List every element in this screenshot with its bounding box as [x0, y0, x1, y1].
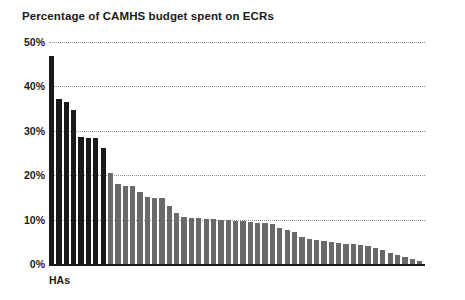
bar-slot: [101, 42, 108, 264]
bar-slot: [49, 42, 56, 264]
bar-slot: [380, 42, 387, 264]
bar-slot: [402, 42, 409, 264]
bar-slot: [152, 42, 159, 264]
plot-area: [49, 42, 425, 264]
bar: [343, 244, 348, 264]
bar-slot: [56, 42, 63, 264]
bar-slot: [233, 42, 240, 264]
bar: [240, 221, 245, 264]
bar: [108, 173, 113, 264]
bar: [351, 244, 356, 264]
bar-slot: [123, 42, 130, 264]
bar-slot: [108, 42, 115, 264]
bar-slot: [137, 42, 144, 264]
bar-slot: [226, 42, 233, 264]
bar-slot: [145, 42, 152, 264]
bar: [174, 213, 179, 265]
bar-slot: [292, 42, 299, 264]
bar: [365, 246, 370, 264]
bar-slot: [395, 42, 402, 264]
chart-title: Percentage of CAMHS budget spent on ECRs: [22, 10, 274, 22]
bar-slot: [64, 42, 71, 264]
bar: [373, 248, 378, 264]
bar-slot: [218, 42, 225, 264]
chart-container: Percentage of CAMHS budget spent on ECRs…: [0, 0, 465, 300]
bar-slot: [130, 42, 137, 264]
bar: [56, 99, 61, 264]
bar-slot: [71, 42, 78, 264]
bar: [167, 206, 172, 264]
bar-slot: [343, 42, 350, 264]
bar-slot: [115, 42, 122, 264]
bar-slot: [373, 42, 380, 264]
bar-slot: [351, 42, 358, 264]
bar: [159, 198, 164, 264]
bar-slot: [174, 42, 181, 264]
bar: [49, 56, 54, 264]
bar-slot: [86, 42, 93, 264]
bar: [218, 220, 223, 264]
bar-slot: [307, 42, 314, 264]
bar-slot: [417, 42, 424, 264]
bar: [93, 138, 98, 264]
bar: [152, 198, 157, 264]
bar: [181, 217, 186, 264]
bar-slot: [285, 42, 292, 264]
bar: [137, 192, 142, 264]
bar-slot: [410, 42, 417, 264]
y-tick-label-50: 50%: [1, 36, 45, 48]
bar-slot: [189, 42, 196, 264]
bar: [358, 245, 363, 264]
bar-slot: [159, 42, 166, 264]
bar: [248, 222, 253, 264]
x-axis-line: [49, 264, 425, 266]
bar-slot: [299, 42, 306, 264]
bar-slot: [270, 42, 277, 264]
bar: [101, 148, 106, 264]
bar: [299, 237, 304, 264]
bar: [395, 255, 400, 264]
bar-slot: [211, 42, 218, 264]
bar: [402, 257, 407, 264]
bar: [211, 219, 216, 264]
bar: [78, 137, 83, 264]
bar-slot: [181, 42, 188, 264]
bar: [189, 218, 194, 264]
bar: [307, 239, 312, 264]
bar-series: [49, 42, 425, 264]
bar-slot: [336, 42, 343, 264]
y-tick-label-30: 30%: [1, 125, 45, 137]
bar-slot: [314, 42, 321, 264]
bar-slot: [78, 42, 85, 264]
bar: [196, 218, 201, 264]
bar: [292, 232, 297, 264]
bar: [388, 253, 393, 264]
bar-slot: [277, 42, 284, 264]
bar: [262, 223, 267, 264]
bar: [255, 223, 260, 264]
bar-slot: [329, 42, 336, 264]
bar-slot: [248, 42, 255, 264]
bar: [115, 184, 120, 264]
bar: [64, 102, 69, 264]
bar-slot: [321, 42, 328, 264]
y-tick-label-10: 10%: [1, 214, 45, 226]
y-tick-label-40: 40%: [1, 80, 45, 92]
bar-slot: [358, 42, 365, 264]
bar: [86, 138, 91, 264]
bar: [329, 242, 334, 264]
bar: [277, 228, 282, 264]
bar: [270, 224, 275, 264]
bar-slot: [196, 42, 203, 264]
bar-slot: [365, 42, 372, 264]
bar-slot: [255, 42, 262, 264]
y-axis-tick-labels: 0%10%20%30%40%50%: [0, 42, 45, 264]
bar: [336, 243, 341, 264]
bar: [145, 197, 150, 264]
bar-slot: [388, 42, 395, 264]
bar: [233, 221, 238, 265]
bar-slot: [240, 42, 247, 264]
bar-slot: [204, 42, 211, 264]
bar-slot: [262, 42, 269, 264]
y-tick-label-20: 20%: [1, 169, 45, 181]
